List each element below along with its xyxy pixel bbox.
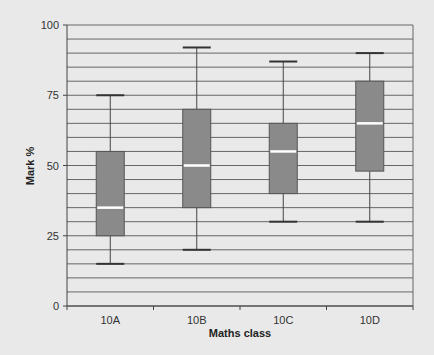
x-tick-label: 10C [273, 314, 293, 326]
y-tick-label: 75 [47, 89, 59, 101]
box-10C [269, 62, 297, 222]
y-tick-label: 0 [53, 300, 59, 312]
x-tick-label: 10B [187, 314, 207, 326]
box-plot-chart: 025507510010A10B10C10D Mark % Maths clas… [0, 0, 434, 355]
box-series [96, 47, 384, 263]
x-tick-label: 10D [360, 314, 380, 326]
box-10A [96, 95, 124, 264]
y-tick-label: 100 [41, 19, 59, 31]
box-10B [183, 47, 211, 249]
iqr-box [356, 81, 384, 171]
box-10D [356, 53, 384, 222]
y-tick-label: 50 [47, 160, 59, 172]
x-axis-title: Maths class [209, 327, 271, 339]
y-axis-title: Mark % [24, 147, 36, 186]
iqr-box [183, 109, 211, 207]
x-tick-label: 10A [100, 314, 120, 326]
y-tick-label: 25 [47, 230, 59, 242]
iqr-box [269, 123, 297, 193]
iqr-box [96, 151, 124, 235]
